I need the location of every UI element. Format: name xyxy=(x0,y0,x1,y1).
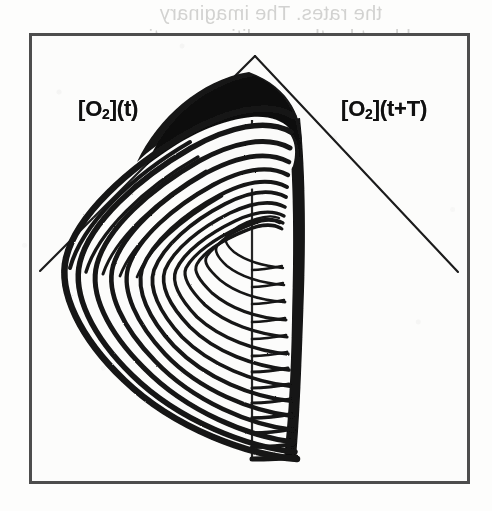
y-axis-label: [O2](t+T) xyxy=(341,96,427,122)
x-axis-label: [O2](t) xyxy=(78,96,138,122)
y-axis-label-subscript: 2 xyxy=(365,106,373,122)
y-axis-label-prefix: [O xyxy=(341,96,365,121)
bleed-line: the rates. The imaginary xyxy=(160,2,383,25)
figure-page: the rates. The imaginary could not be th… xyxy=(0,0,492,511)
x-axis-label-prefix: [O xyxy=(78,96,102,121)
x-axis-label-subscript: 2 xyxy=(102,106,110,122)
y-axis-label-suffix: ](t+T) xyxy=(373,96,427,121)
x-axis-label-suffix: ](t) xyxy=(110,96,139,121)
